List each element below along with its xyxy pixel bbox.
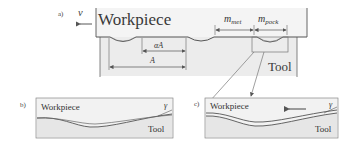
velocity-symbol: v xyxy=(78,8,83,19)
a-dimension-label: A xyxy=(150,57,155,65)
panel-a-label: a) xyxy=(58,11,63,18)
m-pock-label: mpock xyxy=(258,14,278,26)
m-met-sub: met xyxy=(231,18,241,26)
alpha-a-dimension-label: αA xyxy=(154,42,163,50)
panel-c-angle-symbol: γ xyxy=(329,101,332,109)
panel-c-tool-label: Tool xyxy=(315,125,331,134)
panel-b-workpiece-label: Workpiece xyxy=(41,103,80,112)
m-pock-sub: pock xyxy=(265,18,278,26)
panel-b-label: b) xyxy=(20,102,26,109)
m-met-label: mmet xyxy=(224,14,241,26)
panel-c-workpiece-label: Workpiece xyxy=(210,102,249,111)
panel-a-workpiece-label: Workpiece xyxy=(98,11,171,28)
panel-b-angle-symbol: γ xyxy=(164,102,167,110)
diagram-graphics xyxy=(0,0,357,148)
panel-c-label: c) xyxy=(194,101,199,108)
panel-b-tool-label: Tool xyxy=(148,125,164,134)
panel-a-tool-label: Tool xyxy=(268,60,292,73)
